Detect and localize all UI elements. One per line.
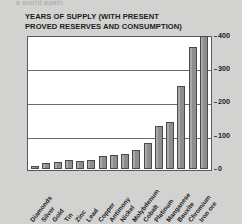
bar-manganese [166,122,174,169]
bar-zinc [76,161,84,169]
plot-area [27,36,212,172]
y-axis: 0100200300400 [214,29,242,177]
y-tick-label-400: 400 [218,32,230,40]
x-tick-label-zinc: Zinc [73,208,87,223]
bar-tin [65,160,73,169]
y-tick-label-200: 200 [218,98,230,106]
bar-series [29,38,210,170]
bar-molybdenum [132,150,140,169]
y-tick-mark [214,169,217,170]
x-axis: DiamondsSilverGoldTinZincLeadCopperAntim… [27,171,212,223]
bar-silver [42,163,50,169]
clipped-body-text: a world again [16,0,63,6]
bar-gold [54,162,62,169]
bar-chromium [189,47,197,169]
bar-iron-ore [200,36,208,170]
bar-cobalt [144,143,152,169]
y-tick-mark [214,69,217,70]
bar-antimony [110,155,118,169]
y-tick-label-100: 100 [218,132,230,140]
x-tick-label-tin: Tin [62,211,73,223]
chart-title-line-2: PROVED RESERVES AND CONSUMPTION) [25,22,210,32]
y-tick-label-0: 0 [218,165,222,173]
bar-diamonds [31,166,39,169]
bar-bauxite [177,86,185,169]
y-tick-label-300: 300 [218,65,230,73]
bar-nickel [121,154,129,169]
y-tick-mark [214,102,217,103]
x-tick-label-lead: Lead [85,207,100,223]
chart-title-line-1: YEARS OF SUPPLY (WITH PRESENT [25,12,159,21]
bar-copper [99,156,107,169]
bar-lead [87,160,95,169]
bar-platinum [155,126,163,169]
y-tick-mark [214,136,217,137]
y-tick-mark [214,36,217,37]
chart-title: YEARS OF SUPPLY (WITH PRESENT PROVED RES… [25,12,210,31]
chart-figure: a world again YEARS OF SUPPLY (WITH PRES… [0,0,242,224]
